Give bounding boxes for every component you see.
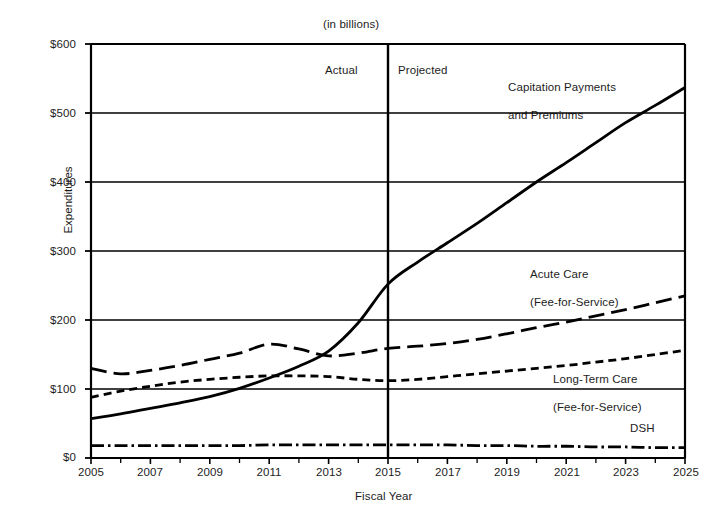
plot-area — [0, 0, 728, 522]
expenditures-line-chart: (in billions) $600 $500 $400 $300 $200 $… — [0, 0, 728, 522]
x-tick-marks-group — [91, 458, 685, 464]
